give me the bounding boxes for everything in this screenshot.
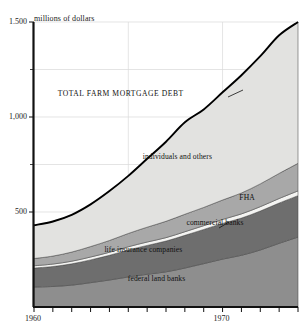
y-tick-label-1000: 1,000 [0, 112, 27, 121]
band-label-individuals: individuals and others [143, 152, 212, 161]
y-axis-unit-label: millions of dollars [34, 14, 95, 23]
band-label-total-curve: TOTAL FARM MORTGAGE DEBT [58, 89, 184, 98]
farm-mortgage-debt-chart: millions of dollars 5001,0001.500 196019… [0, 0, 306, 331]
y-tick-label-1500: 1.500 [0, 17, 27, 26]
band-label-federal-land: federal land banks [128, 274, 185, 283]
band-label-commercial: commercial banks [186, 218, 243, 227]
x-tick-label-1960: 1960 [25, 314, 41, 323]
x-tick-label-1970: 1970 [214, 314, 230, 323]
band-label-fha: FHA [239, 193, 255, 202]
band-label-life-insurance: life insurance companies [104, 245, 182, 254]
y-tick-label-500: 500 [0, 207, 27, 216]
